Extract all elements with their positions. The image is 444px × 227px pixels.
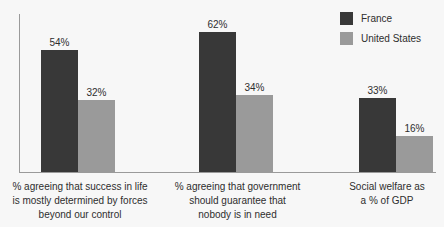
bar-value-label: 32% (78, 87, 115, 98)
category-label-line: should guarantee that (155, 194, 320, 208)
bar-france: 33% (359, 98, 396, 172)
bar-value-label: 54% (41, 37, 78, 48)
category-label-line: % agreeing that success in life (0, 180, 160, 194)
bar-rect (41, 50, 78, 172)
bar-rect (396, 136, 433, 172)
bar-france: 62% (199, 32, 236, 172)
bar-france: 54% (41, 50, 78, 172)
bar-group: 33%16% (359, 14, 433, 172)
plot-area: 54%32%62%34%33%16% (19, 14, 436, 172)
category-label: Social welfare asa % of GDP (330, 180, 444, 208)
bar-united-states: 32% (78, 100, 115, 172)
bar-groups: 54%32%62%34%33%16% (19, 14, 436, 172)
x-axis-line (19, 172, 436, 173)
bar-rect (78, 100, 115, 172)
bar-rect (236, 95, 273, 172)
bar-rect (199, 32, 236, 172)
category-label: % agreeing that governmentshould guarant… (155, 180, 320, 222)
category-label-line: nobody is in need (155, 208, 320, 222)
bar-rect (359, 98, 396, 172)
bar-value-label: 16% (396, 123, 433, 134)
bar-united-states: 16% (396, 136, 433, 172)
bar-group: 62%34% (199, 14, 273, 172)
category-label-line: a % of GDP (330, 194, 444, 208)
bar-united-states: 34% (236, 95, 273, 172)
category-label-line: beyond our control (0, 208, 160, 222)
bar-value-label: 62% (199, 19, 236, 30)
category-label-line: % agreeing that government (155, 180, 320, 194)
category-label-line: is mostly determined by forces (0, 194, 160, 208)
bar-group: 54%32% (41, 14, 115, 172)
category-label-line: Social welfare as (330, 180, 444, 194)
grouped-bar-chart: France United States 54%32%62%34%33%16% … (0, 0, 444, 227)
bar-value-label: 33% (359, 85, 396, 96)
category-labels: % agreeing that success in lifeis mostly… (0, 180, 444, 227)
bar-value-label: 34% (236, 82, 273, 93)
category-label: % agreeing that success in lifeis mostly… (0, 180, 160, 222)
